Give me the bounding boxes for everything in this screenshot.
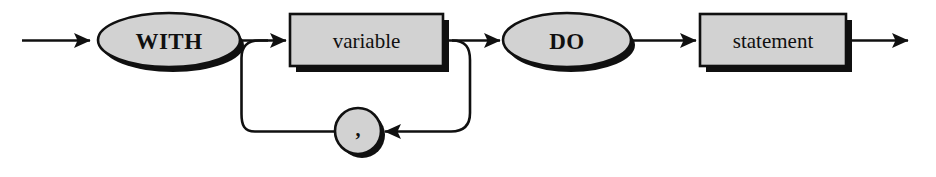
statement-nonterminal-label: statement <box>733 29 814 53</box>
with-keyword-label: WITH <box>135 29 202 54</box>
node-with-keyword[interactable]: WITH <box>98 13 240 67</box>
comma-separator-label: , <box>356 118 361 140</box>
variable-nonterminal-label: variable <box>333 29 401 53</box>
node-comma-separator[interactable]: , <box>335 108 381 154</box>
railroad-diagram-canvas: WITH variable DO statement , <box>0 0 936 177</box>
syntax-diagram: WITH variable DO statement , <box>0 0 936 177</box>
node-variable-nonterminal[interactable]: variable <box>290 14 443 66</box>
do-keyword-label: DO <box>549 29 585 54</box>
node-statement-nonterminal[interactable]: statement <box>700 14 846 66</box>
node-do-keyword[interactable]: DO <box>503 13 631 67</box>
